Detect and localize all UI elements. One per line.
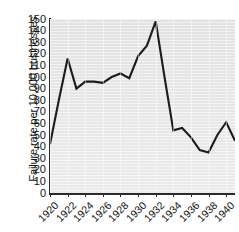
x-tick-mark [209,193,210,197]
plot-vertical-gridline [50,19,51,193]
y-tick-label: 70 [34,106,46,117]
plot-vertical-gridline [156,19,157,193]
y-tick-label: 80 [34,95,46,106]
plot-vertical-gridline [103,19,104,193]
plot-vertical-gridline [191,19,192,193]
y-tick-label: 60 [34,118,46,129]
failure-rate-line [50,21,235,152]
y-tick-label: 140 [28,25,46,36]
plot-area [50,19,235,193]
x-axis-tick-labels: 1920192219241926192819301932193419361938… [0,193,239,232]
x-tick-mark [85,193,86,197]
x-tick-mark [68,193,69,197]
plot-vertical-gridline [85,19,86,193]
chart-figure: Failure rate per 10,000 businesses 15014… [0,0,239,232]
x-tick-mark [138,193,139,197]
x-tick-mark [120,193,121,197]
y-tick-label: 150 [28,14,46,25]
y-tick-label: 120 [28,48,46,59]
line-series-svg [50,19,235,193]
plot-vertical-gridline [226,19,227,193]
y-tick-label: 30 [34,153,46,164]
y-tick-label: 100 [28,72,46,83]
plot-vertical-gridline [173,19,174,193]
y-tick-label: 20 [34,164,46,175]
x-tick-mark [103,193,104,197]
y-tick-label: 10 [34,176,46,187]
x-tick-mark [173,193,174,197]
x-tick-mark [156,193,157,197]
plot-vertical-gridline [209,19,210,193]
y-tick-label: 40 [34,141,46,152]
plot-vertical-gridline [138,19,139,193]
plot-vertical-gridline [120,19,121,193]
x-tick-mark [191,193,192,197]
y-tick-label: 130 [28,37,46,48]
y-tick-label: 90 [34,83,46,94]
y-tick-label: 110 [28,60,46,71]
y-tick-label: 50 [34,130,46,141]
plot-vertical-gridline [68,19,69,193]
x-tick-mark [226,193,227,197]
x-tick-mark [50,193,51,197]
